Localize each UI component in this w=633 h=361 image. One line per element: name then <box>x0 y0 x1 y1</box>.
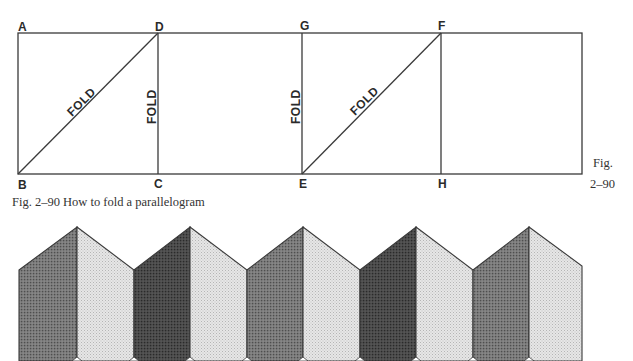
panel-2-light <box>190 227 247 361</box>
point-label-h: H <box>438 177 447 191</box>
point-label-a: A <box>18 20 27 34</box>
panel-5-light <box>529 227 582 361</box>
side-figure-label-line2: 2–90 <box>590 177 615 191</box>
panel-4-dark <box>360 227 416 361</box>
panel-2-dark <box>134 227 190 361</box>
fold-label-diagonal-2: FOLD <box>347 84 381 118</box>
figure-canvas: A D G F B C E H FOLD FOLD FOLD FOLD Fig.… <box>0 0 633 361</box>
point-label-g: G <box>300 19 309 33</box>
panel-1-light <box>77 227 134 361</box>
panel-3-light <box>303 227 360 361</box>
fold-label-diagonal-1: FOLD <box>64 85 98 119</box>
panel-5-dark <box>473 227 529 361</box>
fold-label-vertical-dc: FOLD <box>145 89 159 124</box>
side-figure-label-line1: Fig. <box>593 156 613 170</box>
folded-parallelogram <box>19 227 582 361</box>
point-label-f: F <box>438 19 445 33</box>
figure-caption: Fig. 2–90 How to fold a parallelogram <box>12 195 205 209</box>
point-label-c: C <box>154 177 163 191</box>
fold-label-vertical-ge: FOLD <box>289 89 303 124</box>
point-label-e: E <box>299 177 307 191</box>
panel-3-dark <box>247 227 303 361</box>
panel-1-dark <box>19 227 77 361</box>
point-label-d: D <box>155 20 164 34</box>
panel-4-light <box>416 227 473 361</box>
point-label-b: B <box>18 178 27 192</box>
